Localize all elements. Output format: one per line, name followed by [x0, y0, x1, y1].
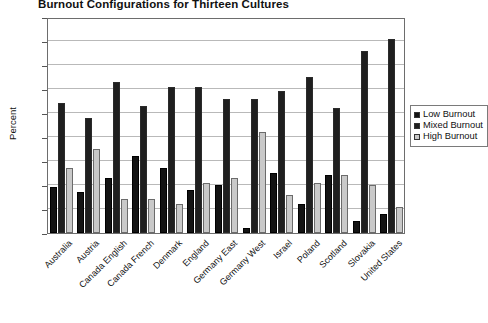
bar-cluster — [132, 19, 156, 233]
bar-cluster — [270, 19, 294, 233]
bar — [85, 118, 92, 233]
bar — [259, 132, 266, 233]
bar — [341, 175, 348, 233]
legend-swatch-icon — [414, 112, 420, 118]
bar — [113, 82, 120, 233]
x-tick-label: Denmark — [151, 238, 184, 271]
bar — [306, 77, 313, 233]
bar — [369, 185, 376, 233]
bar — [325, 175, 332, 233]
legend-item-label: Mixed Burnout — [423, 120, 483, 131]
bar — [176, 204, 183, 233]
bar — [168, 87, 175, 233]
bar — [388, 39, 395, 233]
bar-cluster — [243, 19, 267, 233]
bar-cluster — [105, 19, 129, 233]
bar — [93, 149, 100, 233]
bar — [251, 99, 258, 233]
x-tick-label: Israel — [271, 238, 294, 261]
bar — [298, 204, 305, 233]
bar — [270, 173, 277, 233]
y-tick-mark — [42, 234, 47, 235]
bar — [361, 51, 368, 233]
bar — [77, 192, 84, 233]
bar-cluster — [160, 19, 184, 233]
bar — [132, 156, 139, 233]
bar — [215, 185, 222, 233]
plot-area — [47, 18, 405, 234]
bar — [105, 178, 112, 233]
bar — [223, 99, 230, 233]
bar — [160, 168, 167, 233]
bar-cluster — [50, 19, 74, 233]
bar-cluster — [215, 19, 239, 233]
bar — [380, 214, 387, 233]
bar — [66, 168, 73, 233]
bar — [58, 103, 65, 233]
bar — [396, 207, 403, 233]
bar — [140, 106, 147, 233]
bar — [286, 195, 293, 233]
legend-item: Mixed Burnout — [414, 120, 483, 131]
y-axis-title: Percent — [7, 94, 18, 154]
legend-item-label: Low Burnout — [423, 109, 475, 120]
bar — [243, 228, 250, 233]
legend-swatch-icon — [414, 123, 420, 129]
x-tick-label: Australia — [42, 238, 74, 270]
bar — [314, 183, 321, 233]
bar — [195, 87, 202, 233]
legend-item-label: High Burnout — [423, 131, 477, 142]
bar-cluster — [77, 19, 101, 233]
bar — [50, 187, 57, 233]
bar-cluster — [298, 19, 322, 233]
legend-item: High Burnout — [414, 131, 483, 142]
chart-title: Burnout Configurations for Thirteen Cult… — [38, 0, 289, 10]
bar — [187, 190, 194, 233]
bar — [278, 91, 285, 233]
bar-cluster — [380, 19, 404, 233]
bar-cluster — [325, 19, 349, 233]
chart-legend: Low BurnoutMixed BurnoutHigh Burnout — [410, 105, 488, 147]
bar — [231, 178, 238, 233]
bar — [333, 108, 340, 233]
bar — [121, 199, 128, 233]
bar — [148, 199, 155, 233]
bar — [353, 221, 360, 233]
bar — [203, 183, 210, 233]
legend-swatch-icon — [414, 134, 420, 140]
legend-item: Low Burnout — [414, 109, 483, 120]
x-tick-label: Scotland — [317, 238, 349, 270]
bar-cluster — [187, 19, 211, 233]
bar-cluster — [353, 19, 377, 233]
